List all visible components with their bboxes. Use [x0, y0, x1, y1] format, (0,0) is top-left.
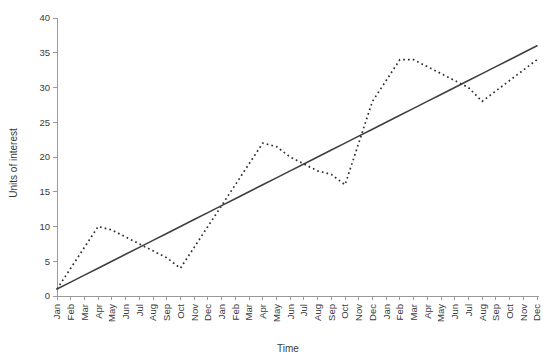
x-tick-label: Mar [79, 304, 90, 320]
x-tick-label: Sep [326, 304, 337, 321]
chart-series-group [57, 46, 537, 289]
x-tick-label: Oct [339, 304, 350, 319]
x-tick-label: Dec [202, 304, 213, 321]
x-tick-label: May [271, 304, 282, 322]
x-tick-label: Mar [408, 304, 419, 320]
x-tick-label: Apr [257, 304, 268, 319]
x-tick-label: Jun [449, 304, 460, 319]
y-tick-label: 35 [39, 47, 50, 58]
x-tick-label: Jul [298, 304, 309, 316]
chart-figure: 0510152025303540 JanFebMarAprMayJunJulAu… [0, 0, 549, 363]
x-tick-label: Sep [161, 304, 172, 321]
x-tick-label: Aug [477, 304, 488, 321]
y-tick-label: 30 [39, 82, 50, 93]
y-tick-label: 5 [45, 256, 50, 267]
x-tick-label: Jan [381, 304, 392, 319]
x-tick-label: Nov [518, 304, 529, 321]
x-tick-label: Dec [531, 304, 542, 321]
y-tick-label: 40 [39, 12, 50, 23]
y-tick-label: 10 [39, 221, 50, 232]
x-tick-label: May [106, 304, 117, 322]
x-tick-label: Oct [175, 304, 186, 319]
x-tick-label: May [435, 304, 446, 322]
x-tick-label: Feb [230, 304, 241, 320]
x-tick-label: Jul [463, 304, 474, 316]
x-tick-label: Apr [422, 304, 433, 319]
x-axis-title: Time [277, 343, 299, 354]
x-axis: JanFebMarAprMayJunJulAugSepOctNovDecJanF… [51, 296, 542, 322]
x-tick-label: Oct [504, 304, 515, 319]
y-tick-label: 15 [39, 186, 50, 197]
x-tick-label: Nov [353, 304, 364, 321]
x-tick-label: Jan [216, 304, 227, 319]
series-line-solid [57, 46, 537, 289]
y-tick-label: 25 [39, 117, 50, 128]
x-tick-label: Feb [394, 304, 405, 320]
series-line-dotted [57, 60, 537, 289]
y-tick-label: 0 [45, 290, 50, 301]
x-tick-label: Mar [243, 304, 254, 320]
x-tick-label: Jun [120, 304, 131, 319]
x-tick-label: Jul [134, 304, 145, 316]
x-tick-label: Nov [189, 304, 200, 321]
x-tick-label: Sep [490, 304, 501, 321]
y-axis-title: Units of interest [8, 128, 19, 198]
x-tick-label: Aug [147, 304, 158, 321]
x-tick-label: Jun [285, 304, 296, 319]
chart-plot-area: 0510152025303540 JanFebMarAprMayJunJulAu… [0, 0, 549, 363]
y-axis: 0510152025303540 [39, 12, 57, 301]
x-tick-label: Aug [312, 304, 323, 321]
y-tick-label: 20 [39, 151, 50, 162]
x-tick-label: Dec [367, 304, 378, 321]
x-tick-label: Feb [65, 304, 76, 320]
x-tick-label: Jan [51, 304, 62, 319]
x-tick-label: Apr [93, 304, 104, 319]
